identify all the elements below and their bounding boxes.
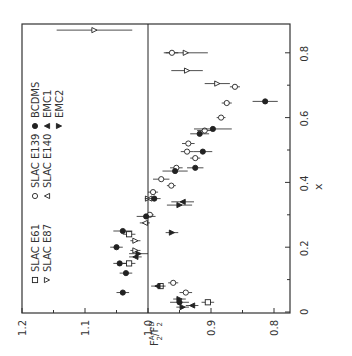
ratio-tick-label: 0.9 — [206, 320, 217, 336]
x-tick-label: 0.4 — [299, 175, 310, 191]
data-point-marker — [232, 84, 237, 89]
data-point-marker — [169, 50, 174, 55]
data-point-marker — [183, 290, 188, 295]
data-point-marker — [186, 141, 191, 146]
data-point-marker — [144, 214, 149, 219]
data-point-marker — [263, 99, 268, 104]
data-point-marker — [184, 149, 189, 154]
legend-marker-icon — [32, 123, 37, 128]
data-point-marker — [127, 261, 132, 266]
data-point-marker — [205, 300, 210, 305]
data-point-marker — [193, 165, 198, 170]
x-tick-label: 0.6 — [299, 111, 310, 127]
legend-label: SLAC E61 — [30, 224, 41, 272]
data-point-marker — [197, 131, 202, 136]
ratio-tick-label: 1.1 — [80, 320, 91, 336]
ratio-tick-label: 1.2 — [17, 320, 28, 336]
data-point-marker — [117, 261, 122, 266]
legend-item-slac-e139: SLAC E139 — [30, 134, 41, 199]
data-point-marker — [114, 245, 119, 250]
x-tick-label: 0 — [299, 309, 310, 315]
legend-label: SLAC E140 — [42, 134, 53, 188]
emc-ratio-chart: 0.80.91.01.11.200.20.40.60.8 SLAC E61SLA… — [0, 0, 352, 356]
data-point-marker — [127, 232, 132, 237]
data-point-marker — [152, 196, 157, 201]
data-point-marker — [218, 115, 223, 120]
data-point-marker — [120, 290, 125, 295]
x-axis-label: x — [312, 183, 325, 190]
legend-label: SLAC E87 — [42, 224, 53, 272]
data-point-marker — [120, 228, 125, 233]
data-point-marker — [193, 156, 198, 161]
legend-marker-icon — [32, 277, 37, 282]
legend-marker-icon — [32, 193, 37, 198]
legend-label: BCDMS — [30, 82, 41, 118]
data-point-marker — [210, 126, 215, 131]
legend-label: EMC1 — [42, 90, 53, 118]
legend-item-slac-e140: SLAC E140 — [42, 134, 53, 199]
legend-label: EMC2 — [54, 90, 65, 118]
ratio-tick-label: 0.8 — [269, 320, 280, 336]
data-point-marker — [150, 190, 155, 195]
legend-label: SLAC E139 — [30, 134, 41, 188]
data-point-marker — [169, 183, 174, 188]
data-point-marker — [224, 100, 229, 105]
x-tick-label: 0.8 — [299, 46, 310, 62]
data-point-marker — [200, 149, 205, 154]
data-point-marker — [172, 168, 177, 173]
data-point-marker — [171, 280, 176, 285]
x-tick-label: 0.2 — [299, 240, 310, 256]
data-point-marker — [123, 271, 128, 276]
data-point-marker — [159, 177, 164, 182]
plot-canvas: 0.80.91.01.11.200.20.40.60.8 SLAC E61SLA… — [0, 0, 352, 356]
